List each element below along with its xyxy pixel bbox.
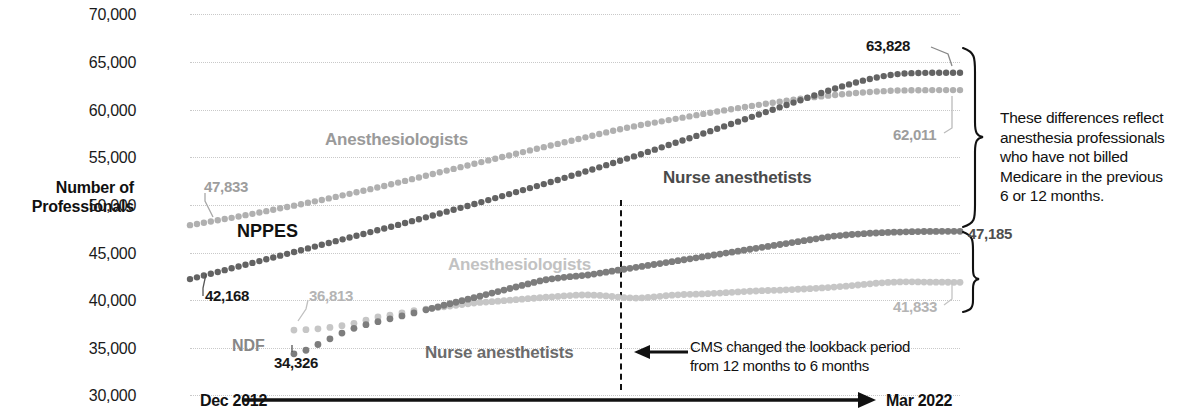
callout-nppes-nurse-start: 42,168	[205, 287, 249, 304]
gridline-55000	[190, 157, 960, 158]
label-nurse-anesthetists-nppes: Nurse anesthetists	[663, 168, 812, 188]
y-tick-70000: 70,000	[50, 6, 136, 24]
callout-ndf-nurse-end: 47,185	[968, 225, 1012, 242]
gridline-50000	[190, 205, 960, 206]
y-tick-50000: 50,000	[50, 197, 136, 215]
label-anesthesiologists-ndf: Anesthesiologists	[448, 255, 591, 275]
gridline-70000	[190, 14, 960, 15]
callout-nppes-nurse-end: 63,828	[866, 37, 910, 54]
x-axis-start-label: Dec 2012	[200, 392, 267, 410]
label-ndf-group: NDF	[232, 337, 265, 355]
right-note-line3: who have not billed	[1000, 147, 1186, 167]
y-tick-30000: 30,000	[50, 387, 136, 405]
y-tick-55000: 55,000	[50, 149, 136, 167]
y-tick-35000: 35,000	[50, 340, 136, 358]
right-note-line2: anesthesia professionals	[1000, 128, 1186, 148]
gridline-60000	[190, 110, 960, 111]
gridline-30000	[190, 395, 960, 396]
y-tick-60000: 60,000	[50, 102, 136, 120]
callout-nppes-anesthesiologists-start: 47,833	[204, 178, 248, 195]
cms-lookback-dashed-line	[620, 200, 622, 390]
y-axis-title-line1: Number of	[14, 178, 134, 197]
label-anesthesiologists-nppes: Anesthesiologists	[325, 130, 468, 150]
y-tick-65000: 65,000	[50, 54, 136, 72]
callout-ndf-anesthesiologists-start: 36,813	[309, 287, 353, 304]
gridline-65000	[190, 62, 960, 63]
callout-ndf-anesthesiologists-end: 41,833	[893, 298, 937, 315]
x-axis-end-label: Mar 2022	[886, 392, 952, 410]
right-explanation-note: These differences reflect anesthesia pro…	[1000, 108, 1186, 206]
cms-lookback-note: CMS changed the lookback period from 12 …	[690, 337, 950, 375]
callout-nppes-anesthesiologists-end: 62,011	[893, 126, 936, 143]
label-nurse-anesthetists-ndf: Nurse anesthetists	[425, 343, 574, 363]
cms-note-line1: CMS changed the lookback period	[690, 337, 950, 356]
y-tick-40000: 40,000	[50, 292, 136, 310]
y-tick-45000: 45,000	[50, 245, 136, 263]
cms-note-line2: from 12 months to 6 months	[690, 356, 950, 375]
right-note-line4: Medicare in the previous	[1000, 167, 1186, 187]
gridline-45000	[190, 253, 960, 254]
right-note-line1: These differences reflect	[1000, 108, 1186, 128]
right-note-line5: 6 or 12 months.	[1000, 186, 1186, 206]
label-nppes-group: NPPES	[237, 221, 298, 242]
callout-ndf-nurse-start: 34,326	[274, 354, 318, 371]
gridline-40000	[190, 300, 960, 301]
chart-root: Number of Professionals 70,000 65,000 60…	[0, 0, 1188, 411]
